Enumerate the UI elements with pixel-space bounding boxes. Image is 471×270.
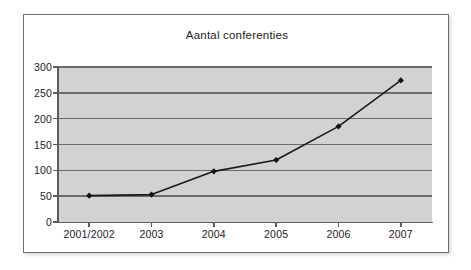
data-point-marker	[148, 192, 154, 198]
series-markers	[86, 77, 404, 198]
series-line	[89, 80, 401, 195]
data-point-marker	[86, 193, 92, 199]
data-point-marker	[211, 168, 217, 174]
chart-figure: Aantal conferenties 050100150200250300 2…	[0, 0, 471, 270]
data-point-marker	[273, 157, 279, 163]
data-series-layer	[0, 0, 471, 270]
